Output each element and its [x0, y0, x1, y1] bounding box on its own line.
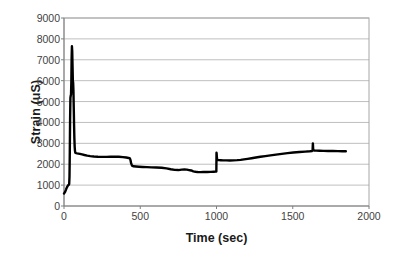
plot-area [0, 0, 399, 258]
strain-vs-time-chart: Strain (uS) 0100020003000400050006000700… [0, 0, 399, 258]
plot-background [64, 18, 369, 206]
